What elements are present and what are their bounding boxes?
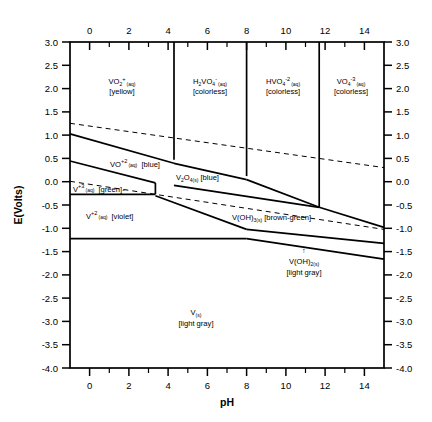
region-hvo4-formula: HVO4-2(aq) — [266, 76, 300, 87]
y-left-tick-12: -3.0 — [42, 316, 58, 327]
x-bottom-tick-3: 6 — [205, 380, 210, 391]
x-top-tick-7: 14 — [359, 25, 370, 36]
x-top-tick-4: 8 — [244, 25, 249, 36]
voh2-arrow-icon: ↑ — [302, 246, 306, 255]
region-vo2p-formula: VO2+(aq) — [109, 76, 136, 87]
y-right-tick-5: 0.5 — [396, 153, 409, 164]
y-right-tick-9: -1.5 — [396, 246, 412, 257]
x-top-tick-3: 6 — [205, 25, 210, 36]
x-top-tick-1: 2 — [126, 25, 131, 36]
y-axis-right-tick-labels: 3.0 2.5 2.0 1.5 1.0 0.5 0.0 -0.5 -1.0 -1… — [396, 37, 412, 374]
y-right-tick-14: -4.0 — [396, 363, 412, 374]
y-right-tick-2: 2.0 — [396, 83, 409, 94]
region-voh2-formula: V(OH)2(s) — [289, 257, 319, 267]
y-left-tick-10: -2.0 — [42, 269, 58, 280]
y-right-tick-8: -1.0 — [396, 223, 412, 234]
x-bottom-tick-5: 10 — [281, 380, 292, 391]
region-label-vp3: V+3(aq) [green]- — [73, 183, 125, 194]
region-label-voh2: ↑ V(OH)2(s) [light gray] — [286, 246, 321, 277]
region-vo4-formula: VO4-3(aq) — [337, 76, 366, 87]
y-right-tick-1: 2.5 — [396, 60, 409, 71]
pourbaix-diagram-vanadium: 0 2 4 6 8 10 12 14 0 2 4 6 8 10 12 14 3.… — [0, 0, 432, 422]
y-right-tick-6: 0.0 — [396, 176, 409, 187]
y-axis-left-ticks — [62, 42, 70, 368]
x-bottom-tick-6: 12 — [320, 380, 331, 391]
region-label-vop2: VO+2(aq) [blue] — [110, 158, 160, 169]
region-label-vs: V(s) [light gray] — [178, 308, 213, 328]
x-bottom-tick-0: 0 — [87, 380, 92, 391]
region-vo2p-color: [yellow] — [109, 87, 134, 96]
region-hvo4-color: [colorless] — [266, 87, 300, 96]
region-label-vp2: V+2(aq) [violet] — [86, 210, 133, 221]
y-left-tick-1: 2.5 — [45, 60, 58, 71]
y-left-tick-8: -1.0 — [42, 223, 58, 234]
x-axis-top-tick-labels: 0 2 4 6 8 10 12 14 — [87, 25, 370, 36]
x-top-tick-5: 10 — [281, 25, 292, 36]
region-label-vo4: VO4-3(aq) [colorless] — [334, 76, 368, 96]
y-axis-left-tick-labels: 3.0 2.5 2.0 1.5 1.0 0.5 0.0 -0.5 -1.0 -1… — [42, 37, 58, 374]
y-right-tick-10: -2.0 — [396, 269, 412, 280]
region-label-vo2p: VO2+(aq) [yellow] — [109, 76, 136, 96]
chart-svg: 0 2 4 6 8 10 12 14 0 2 4 6 8 10 12 14 3.… — [0, 0, 432, 422]
x-bottom-tick-7: 14 — [359, 380, 370, 391]
y-right-tick-0: 3.0 — [396, 37, 409, 48]
region-vs-formula: V(s) — [191, 308, 202, 318]
region-label-voh3: V(OH)3(s)[brown-green] — [232, 213, 311, 223]
line-hvo4-voh3 — [247, 180, 320, 208]
y-left-tick-3: 1.5 — [45, 106, 58, 117]
x-bottom-tick-2: 4 — [165, 380, 170, 391]
x-top-tick-2: 4 — [165, 25, 170, 36]
y-left-tick-11: -2.5 — [42, 293, 58, 304]
region-h2vo4-color: [colorless] — [193, 87, 227, 96]
x-top-tick-0: 0 — [87, 25, 92, 36]
y-right-tick-7: -0.5 — [396, 200, 412, 211]
y-right-tick-11: -2.5 — [396, 293, 412, 304]
x-bottom-tick-1: 2 — [126, 380, 131, 391]
x-axis-top-ticks — [90, 42, 365, 50]
y-left-tick-13: -3.5 — [42, 339, 58, 350]
y-left-tick-4: 1.0 — [45, 130, 58, 141]
region-label-v2o4: V2O4(s)[blue] — [176, 173, 219, 183]
y-right-tick-12: -3.0 — [396, 316, 412, 327]
x-top-tick-6: 12 — [320, 25, 331, 36]
region-vo4-color: [colorless] — [334, 87, 368, 96]
region-vs-color: [light gray] — [178, 319, 213, 328]
x-axis-title: pH — [220, 396, 234, 408]
region-voh2-color: [light gray] — [286, 268, 321, 277]
y-right-tick-3: 1.5 — [396, 106, 409, 117]
y-left-tick-0: 3.0 — [45, 37, 58, 48]
phase-boundary-lines — [70, 134, 384, 259]
x-axis-bottom-tick-labels: 0 2 4 6 8 10 12 14 — [87, 380, 370, 391]
y-axis-title: E(Volts) — [12, 186, 24, 225]
y-axis-right-ticks — [384, 42, 392, 368]
line-vo4-voh3 — [319, 207, 384, 227]
line-v2o4-voh3 — [174, 185, 319, 207]
y-left-tick-5: 0.5 — [45, 153, 58, 164]
region-label-h2vo4: H2VO4-(aq) [colorless] — [193, 76, 227, 96]
region-label-hvo4: HVO4-2(aq) [colorless] — [266, 76, 300, 96]
x-bottom-tick-4: 8 — [244, 380, 249, 391]
y-left-tick-2: 2.0 — [45, 83, 58, 94]
y-left-tick-14: -4.0 — [42, 363, 58, 374]
y-left-tick-6: 0.0 — [45, 176, 58, 187]
x-axis-bottom-ticks — [90, 368, 365, 376]
y-left-tick-7: -0.5 — [42, 200, 58, 211]
y-right-tick-4: 1.0 — [396, 130, 409, 141]
y-right-tick-13: -3.5 — [396, 339, 412, 350]
region-h2vo4-formula: H2VO4-(aq) — [193, 76, 227, 87]
y-left-tick-9: -1.5 — [42, 246, 58, 257]
